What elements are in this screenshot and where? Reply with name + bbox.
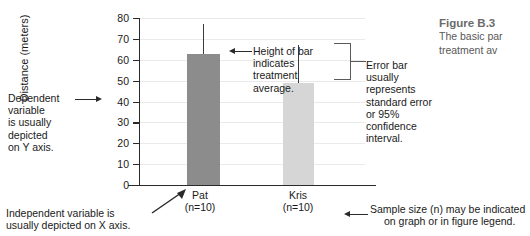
figure-caption-line-2: treatment av <box>439 44 530 58</box>
y-tick-60 <box>133 60 140 61</box>
y-tick-70 <box>133 39 140 40</box>
x-label-name-kris: Kris <box>268 189 328 201</box>
error-bracket-leader-line <box>351 61 366 62</box>
annotation-bar-height-line-3: treatment <box>253 69 331 81</box>
annotation-error-line-4: standard error <box>366 96 450 108</box>
gridline-40 <box>140 102 365 103</box>
y-tick-20 <box>133 143 140 144</box>
gridline-70 <box>140 39 365 40</box>
arrow-left-icon <box>229 48 235 54</box>
y-tick-10 <box>133 164 140 165</box>
sample-size-leader-line <box>349 214 368 215</box>
y-tick-label-10: 10 <box>103 159 129 169</box>
bar-kris <box>283 83 314 185</box>
annotation-dependent-line-5: on Y axis. <box>8 141 103 153</box>
y-tick-40 <box>133 102 140 103</box>
figure-b3: 80 70 60 50 40 30 20 10 0 Distance (mete… <box>0 0 530 236</box>
annotation-error-bar: Error bar usually represents standard er… <box>366 59 450 144</box>
gridline-30 <box>140 122 365 123</box>
y-tick-label-30: 30 <box>103 117 129 127</box>
annotation-bar-height-line-4: average. <box>253 82 331 94</box>
x-label-n-kris: (n=10) <box>268 201 328 213</box>
y-tick-label-50: 50 <box>103 76 129 86</box>
bar-height-leader-line <box>234 51 252 52</box>
arrow-left-icon-sample-size <box>344 211 350 217</box>
dependent-leader-line <box>75 99 97 100</box>
annotation-sample-size-line-1: Sample size (n) may be indicated <box>370 203 530 215</box>
gridline-20 <box>140 143 365 144</box>
annotation-error-line-3: represents <box>366 83 450 95</box>
annotation-bar-height-line-2: indicates <box>253 57 331 69</box>
figure-caption-body: The basic par treatment av <box>439 30 530 57</box>
y-tick-0 <box>133 185 140 186</box>
y-tick-50 <box>133 81 140 82</box>
y-tick-label-80: 80 <box>103 13 129 23</box>
bar-pat <box>187 54 220 186</box>
annotation-error-line-1: Error bar <box>366 59 450 71</box>
arrow-diagonal-up-icon <box>148 188 196 216</box>
figure-caption: Figure B.3 The basic par treatment av <box>439 16 530 57</box>
annotation-error-line-2: usually <box>366 71 450 83</box>
y-tick-labels: 80 70 60 50 40 30 20 10 0 <box>103 0 129 236</box>
annotation-sample-size-line-2: on graph or in figure legend. <box>370 215 530 227</box>
annotation-error-line-5: or 95% <box>366 108 450 120</box>
annotation-dependent-line-4: depicted <box>8 129 103 141</box>
y-tick-label-20: 20 <box>103 138 129 148</box>
y-tick-80 <box>133 18 140 19</box>
gridline-80 <box>140 18 365 19</box>
error-bracket-bottom <box>334 79 351 80</box>
annotation-error-line-7: interval. <box>366 132 450 144</box>
annotation-dependent-line-3: is usually <box>8 116 103 128</box>
plot-area <box>140 18 365 185</box>
figure-caption-title: Figure B.3 <box>439 16 530 30</box>
figure-caption-line-1: The basic par <box>439 30 530 44</box>
x-axis-line <box>128 185 376 186</box>
y-tick-label-70: 70 <box>103 34 129 44</box>
gridline-10 <box>140 164 365 165</box>
annotation-error-line-6: confidence <box>366 120 450 132</box>
annotation-sample-size: Sample size (n) may be indicated on grap… <box>370 203 530 227</box>
annotation-independent-line-2: usually depicted on X axis. <box>6 219 181 231</box>
annotation-dependent-variable: Dependent variable is usually depicted o… <box>8 92 103 153</box>
x-tick-label-kris: Kris (n=10) <box>268 189 328 213</box>
annotation-bar-height-line-1: Height of bar <box>253 45 331 57</box>
arrow-right-icon <box>96 96 102 102</box>
y-tick-label-0: 0 <box>103 180 129 190</box>
y-tick-label-60: 60 <box>103 55 129 65</box>
error-bracket-top <box>334 43 351 44</box>
annotation-bar-height: Height of bar indicates treatment averag… <box>253 45 331 94</box>
y-tick-label-40: 40 <box>103 97 129 107</box>
y-tick-30 <box>133 122 140 123</box>
annotation-dependent-line-2: variable <box>8 104 103 116</box>
